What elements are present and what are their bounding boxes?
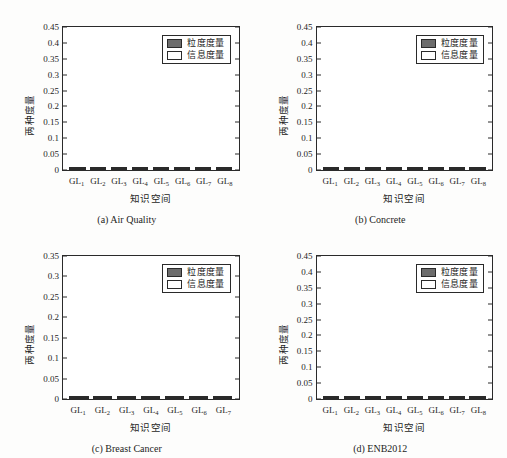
bar-segment-granularity[interactable] bbox=[216, 168, 232, 170]
y-tick-mark bbox=[63, 58, 67, 59]
bar-segment-granularity[interactable] bbox=[428, 397, 444, 399]
y-tick-mark bbox=[488, 42, 492, 43]
y-tick-mark bbox=[235, 296, 239, 297]
y-tick-mark bbox=[63, 296, 67, 297]
y-tick-mark bbox=[235, 256, 239, 257]
stacked-bar[interactable] bbox=[365, 396, 381, 399]
bar-segment-granularity[interactable] bbox=[449, 168, 465, 170]
stacked-bar[interactable] bbox=[165, 396, 184, 399]
stacked-bar[interactable] bbox=[132, 167, 148, 170]
y-tick-mark bbox=[488, 399, 492, 400]
stacked-bar[interactable] bbox=[428, 167, 444, 170]
x-tick-label: GL6 bbox=[189, 406, 208, 420]
stacked-bar[interactable] bbox=[189, 396, 208, 399]
y-tick-label: 0.4 bbox=[301, 38, 312, 47]
y-tick-label: 0.15 bbox=[297, 118, 313, 127]
legend-a: 粒度度量 信息度量 bbox=[162, 35, 230, 64]
stacked-bar[interactable] bbox=[93, 396, 112, 399]
y-tick-mark bbox=[317, 351, 321, 352]
bar-segment-granularity[interactable] bbox=[141, 397, 160, 399]
y-tick-mark bbox=[235, 337, 239, 338]
stacked-bar[interactable] bbox=[69, 396, 88, 399]
bar-segment-granularity[interactable] bbox=[365, 168, 381, 170]
bar-segment-granularity[interactable] bbox=[386, 168, 402, 170]
bar-segment-granularity[interactable] bbox=[165, 397, 184, 399]
bar-segment-granularity[interactable] bbox=[407, 168, 423, 170]
bar-segment-granularity[interactable] bbox=[174, 168, 190, 170]
y-tick-mark bbox=[63, 74, 67, 75]
bar-segment-granularity[interactable] bbox=[449, 397, 465, 399]
stacked-bar[interactable] bbox=[449, 167, 465, 170]
bar-segment-granularity[interactable] bbox=[344, 397, 360, 399]
stacked-bar[interactable] bbox=[344, 167, 360, 170]
y-tick-mark bbox=[317, 367, 321, 368]
y-tick-mark bbox=[488, 303, 492, 304]
bar-segment-granularity[interactable] bbox=[428, 168, 444, 170]
y-tick-mark bbox=[317, 58, 321, 59]
bar-segment-granularity[interactable] bbox=[69, 168, 85, 170]
stacked-bar[interactable] bbox=[469, 167, 485, 170]
stacked-bar[interactable] bbox=[117, 396, 136, 399]
bar-segment-granularity[interactable] bbox=[407, 397, 423, 399]
bar-segment-granularity[interactable] bbox=[153, 168, 169, 170]
stacked-bar[interactable] bbox=[344, 396, 360, 399]
y-tick-mark bbox=[317, 256, 321, 257]
stacked-bar[interactable] bbox=[386, 167, 402, 170]
bar-segment-granularity[interactable] bbox=[195, 168, 211, 170]
stacked-bar[interactable] bbox=[386, 396, 402, 399]
stacked-bar[interactable] bbox=[153, 167, 169, 170]
bar-segment-granularity[interactable] bbox=[469, 168, 485, 170]
bar-segment-granularity[interactable] bbox=[386, 397, 402, 399]
bar-segment-granularity[interactable] bbox=[132, 168, 148, 170]
stacked-bar[interactable] bbox=[111, 167, 127, 170]
legend-swatch-information-icon bbox=[421, 51, 436, 60]
x-tick-labels-b: GL1GL2GL3GL4GL5GL6GL7GL8 bbox=[316, 177, 494, 191]
stacked-bar[interactable] bbox=[195, 167, 211, 170]
bar-segment-granularity[interactable] bbox=[93, 397, 112, 399]
bar-segment-granularity[interactable] bbox=[117, 397, 136, 399]
x-tick-label: GL2 bbox=[343, 406, 359, 420]
y-tick-mark bbox=[488, 256, 492, 257]
y-tick-label: 0.3 bbox=[301, 299, 312, 308]
bar-segment-granularity[interactable] bbox=[469, 397, 485, 399]
x-tick-label: GL7 bbox=[196, 177, 212, 191]
y-tick-mark bbox=[63, 42, 67, 43]
x-tick-label: GL8 bbox=[470, 177, 486, 191]
stacked-bar[interactable] bbox=[469, 396, 485, 399]
stacked-bar[interactable] bbox=[141, 396, 160, 399]
y-tick-mark bbox=[63, 276, 67, 277]
legend-label-information: 信息度量 bbox=[441, 51, 478, 60]
stacked-bar[interactable] bbox=[449, 396, 465, 399]
x-tick-label: GL4 bbox=[385, 177, 401, 191]
y-axis-title-a: 两种度量 bbox=[22, 94, 36, 136]
bar-segment-granularity[interactable] bbox=[365, 397, 381, 399]
stacked-bar[interactable] bbox=[323, 396, 339, 399]
stacked-bar[interactable] bbox=[365, 167, 381, 170]
bar-segment-granularity[interactable] bbox=[323, 397, 339, 399]
stacked-bar[interactable] bbox=[174, 167, 190, 170]
stacked-bar[interactable] bbox=[213, 396, 232, 399]
stacked-bar[interactable] bbox=[428, 396, 444, 399]
y-tick-label: 0 bbox=[308, 166, 313, 175]
x-tick-label: GL7 bbox=[449, 406, 465, 420]
y-axis-title-c: 两种度量 bbox=[22, 323, 36, 365]
y-tick-label: 0.15 bbox=[43, 118, 59, 127]
y-tick-mark bbox=[317, 383, 321, 384]
bar-segment-granularity[interactable] bbox=[69, 397, 88, 399]
bar-segment-granularity[interactable] bbox=[90, 168, 106, 170]
bar-segment-granularity[interactable] bbox=[323, 168, 339, 170]
y-tick-label: 0.1 bbox=[301, 363, 312, 372]
stacked-bar[interactable] bbox=[90, 167, 106, 170]
bar-segment-granularity[interactable] bbox=[344, 168, 360, 170]
x-tick-label: GL1 bbox=[322, 406, 338, 420]
stacked-bar[interactable] bbox=[407, 396, 423, 399]
bar-segment-granularity[interactable] bbox=[189, 397, 208, 399]
stacked-bar[interactable] bbox=[69, 167, 85, 170]
y-axis-title-b: 两种度量 bbox=[275, 94, 289, 136]
bar-segment-granularity[interactable] bbox=[213, 397, 232, 399]
bar-segment-granularity[interactable] bbox=[111, 168, 127, 170]
stacked-bar[interactable] bbox=[323, 167, 339, 170]
y-tick-mark bbox=[488, 27, 492, 28]
stacked-bar[interactable] bbox=[407, 167, 423, 170]
stacked-bar[interactable] bbox=[216, 167, 232, 170]
